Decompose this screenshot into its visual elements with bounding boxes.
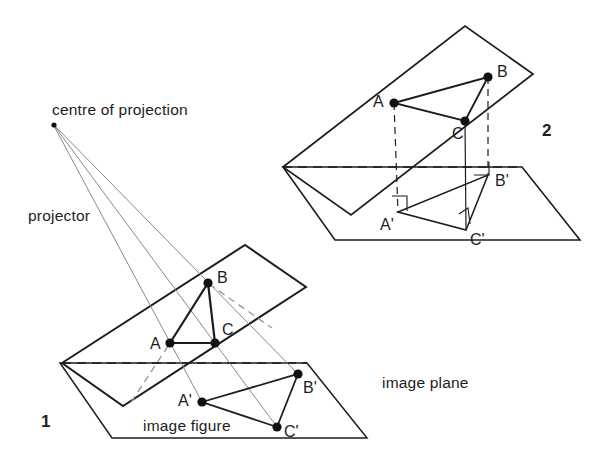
figure2-label-a: A	[373, 94, 384, 110]
figure2-projector-c	[465, 121, 466, 230]
figure1-vertex-a-prime	[197, 397, 206, 406]
right-angle-mark-b-prime	[474, 162, 489, 175]
figure-1-group	[51, 122, 367, 438]
figure1-vertex-b	[203, 278, 212, 287]
figure2-label-b-prime: B'	[495, 173, 509, 189]
figure1-hidden-edge-a	[130, 346, 168, 404]
figure2-label-c-prime: C'	[470, 232, 485, 248]
figure1-vertex-a	[165, 338, 174, 347]
right-angle-mark-c-prime	[459, 208, 470, 224]
figure1-label-a-prime: A'	[178, 393, 192, 409]
projection-diagram-page: centre of projection projector image pla…	[0, 0, 599, 466]
figure2-object-triangle-abc	[394, 77, 488, 121]
centre-of-projection-point	[51, 122, 56, 127]
projector-ray-b	[53, 124, 298, 374]
image-plane-label: image plane	[382, 375, 469, 391]
figure1-label-c: C	[222, 322, 234, 338]
projector-label: projector	[28, 208, 90, 224]
figure2-label-a-prime: A'	[380, 217, 394, 233]
centre-of-projection-label: centre of projection	[52, 102, 188, 118]
figure2-vertex-b	[483, 72, 492, 81]
diagram-canvas	[0, 0, 599, 466]
projector-ray-a	[53, 124, 202, 402]
figure-1-number-label: 1	[41, 413, 50, 430]
figure2-vertex-a	[389, 98, 398, 107]
figure1-label-a: A	[150, 336, 161, 352]
figure1-vertex-b-prime	[293, 369, 302, 378]
image-figure-label: image figure	[143, 418, 231, 434]
figure1-vertex-c-prime	[272, 422, 281, 431]
figure-2-group	[283, 26, 580, 240]
figure1-label-b-prime: B'	[303, 380, 317, 396]
figure2-label-c: C	[452, 126, 464, 142]
figure1-label-b: B	[217, 270, 228, 286]
figure1-hidden-edge-b	[209, 284, 272, 328]
figure2-image-triangle-abc-prime	[398, 175, 488, 230]
figure1-vertex-c	[210, 338, 219, 347]
figure2-image-plane-outline	[283, 167, 580, 240]
figure2-label-b: B	[497, 64, 508, 80]
figure1-label-c-prime: C'	[284, 424, 299, 440]
figure-2-number-label: 2	[542, 122, 551, 139]
